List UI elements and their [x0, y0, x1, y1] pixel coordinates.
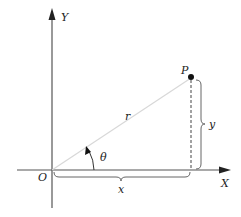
y-component-brace: [196, 80, 205, 169]
y-axis-arrow-icon: [49, 8, 56, 20]
y-axis: [49, 8, 56, 208]
x-component-brace: [54, 172, 190, 181]
angle-label: θ: [100, 151, 107, 164]
x-component-label: x: [118, 183, 125, 196]
y-component-label: y: [208, 118, 216, 131]
point-p: [188, 74, 194, 80]
radius-line: [52, 78, 191, 170]
angle-arc: [85, 146, 94, 170]
x-axis-label: X: [220, 177, 230, 190]
x-axis: [17, 167, 231, 174]
polar-coordinates-diagram: Y X O r P θ y x: [0, 0, 241, 217]
radius-label: r: [125, 110, 131, 123]
origin-label: O: [38, 171, 47, 184]
point-label: P: [180, 64, 189, 77]
y-axis-label: Y: [61, 11, 70, 24]
x-axis-arrow-icon: [219, 167, 231, 174]
